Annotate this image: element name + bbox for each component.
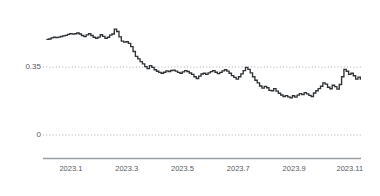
x-axis-tick-label-2023.11: 2023.11 xyxy=(337,164,364,173)
series-line-1 xyxy=(46,29,360,98)
line-chart: 0.35 0 2023.12023.32023.52023.72023.9202… xyxy=(0,0,380,196)
y-axis-tick-label-0: 0 xyxy=(37,130,41,139)
x-axis-tick-label-2023.7: 2023.7 xyxy=(227,164,250,173)
x-axis-tick-label-2023.1: 2023.1 xyxy=(59,164,82,173)
gridlines xyxy=(43,67,361,135)
x-axis-tick-label-2023.3: 2023.3 xyxy=(115,164,138,173)
x-axis-tick-label-2023.9: 2023.9 xyxy=(283,164,306,173)
x-axis-tick-label-2023.5: 2023.5 xyxy=(171,164,194,173)
y-axis-tick-label-0.35: 0.35 xyxy=(25,62,41,71)
